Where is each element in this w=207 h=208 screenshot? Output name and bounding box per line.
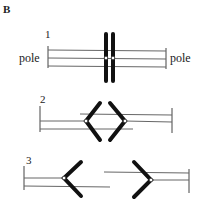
panel-label: B <box>3 3 11 15</box>
step-3-number: 3 <box>26 154 32 166</box>
chromatid-right <box>110 103 125 140</box>
step-1-number: 1 <box>45 28 51 40</box>
centromere-left <box>84 119 88 123</box>
spindle-fiber-middle-right <box>125 121 172 122</box>
chromatid-left <box>64 162 81 196</box>
centromere-right <box>111 56 115 60</box>
step-2-number: 2 <box>40 93 46 105</box>
spindle-fiber-left-bottom <box>24 186 110 187</box>
chromosome-segregation-diagram: B 1 pole pole 2 3 <box>0 0 207 208</box>
right-pole-label: pole <box>170 51 191 65</box>
chromatid-right <box>134 162 151 197</box>
step-1: 1 pole pole <box>19 28 191 81</box>
left-pole-label: pole <box>19 51 40 65</box>
centromere-right <box>149 178 153 182</box>
centromere-right <box>123 119 127 123</box>
centromere-left <box>62 176 66 180</box>
step-2: 2 <box>40 93 172 140</box>
step-3: 3 <box>24 154 189 197</box>
centromere-left <box>104 56 108 60</box>
